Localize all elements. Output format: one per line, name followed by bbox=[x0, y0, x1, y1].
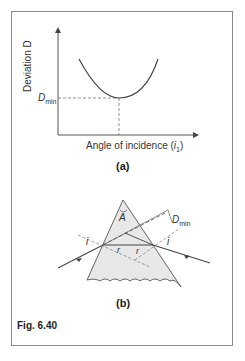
deviation-curve bbox=[79, 59, 158, 98]
graph-axes bbox=[58, 30, 196, 135]
figure-caption: Fig. 6.40 bbox=[17, 320, 57, 331]
panel-a-label: (a) bbox=[116, 160, 129, 172]
refraction-angle-right: r bbox=[136, 246, 139, 256]
x-axis-label: Angle of incidence (i1) bbox=[86, 140, 183, 153]
dmin-axis-marker: Dmin bbox=[38, 92, 57, 105]
panel-b-label: (b) bbox=[116, 297, 130, 309]
incidence-angle-left: i bbox=[86, 236, 88, 247]
dmin-label: Dmin bbox=[172, 214, 191, 227]
refraction-angle-left: r bbox=[117, 245, 120, 255]
apex-angle-label: A bbox=[119, 212, 126, 223]
incidence-angle-right: i bbox=[167, 236, 169, 247]
y-axis-label: Deviation D bbox=[22, 40, 33, 92]
